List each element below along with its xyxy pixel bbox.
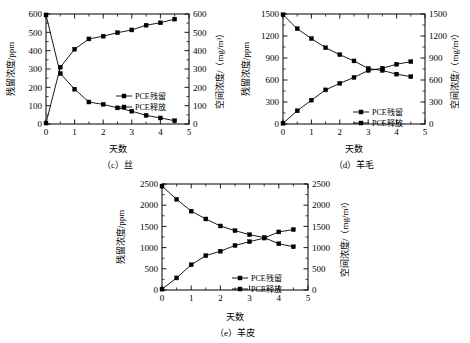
ytick-label-left-3: 900 bbox=[266, 53, 280, 63]
panel-caption-c: （c）丝 bbox=[102, 159, 133, 170]
ytick-label-right-1: 300 bbox=[429, 97, 443, 107]
legend-marker-0 bbox=[238, 276, 242, 280]
ytick-label-right-4: 1200 bbox=[429, 31, 448, 41]
datapoint-c-1-1 bbox=[58, 65, 62, 69]
datapoint-e-0-3 bbox=[204, 217, 208, 221]
datapoint-d-1-8 bbox=[395, 62, 399, 66]
plot-area-d: 0030030060060090090012001200150015000123… bbox=[235, 0, 470, 175]
xtick-label-2: 2 bbox=[218, 293, 223, 303]
chart-c-content: 0010010020020030030040040050050060060001… bbox=[5, 9, 225, 170]
ytick-label-left-5: 2500 bbox=[140, 179, 159, 189]
line-chart-e: 0050050010001000150015002000200025002500… bbox=[110, 170, 360, 343]
chart-e-content: 0050050010001000150015002000200025002500… bbox=[115, 179, 350, 338]
datapoint-d-0-3 bbox=[324, 46, 328, 50]
ytick-label-left-0: 0 bbox=[154, 285, 159, 295]
chart-panel-d: 0030030060060090090012001200150015000123… bbox=[235, 0, 470, 175]
ytick-label-right-2: 1000 bbox=[312, 243, 331, 253]
legend-c: PCE残留PCE释放 bbox=[116, 91, 166, 112]
datapoint-d-0-9 bbox=[409, 75, 413, 79]
ytick-label-right-5: 2500 bbox=[312, 179, 331, 189]
y-axis-label-left: 残留浓度/ppm bbox=[5, 42, 16, 97]
datapoint-c-1-6 bbox=[130, 28, 134, 32]
xtick-label-5: 5 bbox=[187, 127, 192, 137]
ytick-label-left-3: 1500 bbox=[140, 222, 159, 232]
datapoint-d-0-2 bbox=[309, 37, 313, 41]
ytick-label-right-3: 300 bbox=[193, 64, 207, 74]
legend-marker-0 bbox=[359, 110, 363, 114]
datapoint-e-0-1 bbox=[175, 197, 179, 201]
datapoint-d-1-5 bbox=[352, 75, 356, 79]
datapoint-d-0-8 bbox=[395, 72, 399, 76]
chart-panel-e: 0050050010001000150015002000200025002500… bbox=[110, 170, 360, 343]
legend-marker-0 bbox=[122, 94, 126, 98]
panel-caption-d: （d）羊毛 bbox=[334, 159, 375, 170]
y-axis-label-right: 空间浓度/（mg/m³） bbox=[449, 29, 460, 109]
ytick-label-left-2: 200 bbox=[29, 83, 43, 93]
ytick-label-right-0: 0 bbox=[312, 285, 317, 295]
ytick-label-right-5: 500 bbox=[193, 28, 207, 38]
legend-label-0: PCE残留 bbox=[372, 107, 403, 117]
ytick-label-right-2: 200 bbox=[193, 83, 207, 93]
y-axis-label-left: 残留浓度/ppm bbox=[240, 42, 251, 97]
ytick-label-left-6: 600 bbox=[29, 9, 43, 19]
xtick-label-5: 5 bbox=[306, 293, 311, 303]
legend-marker-1 bbox=[359, 121, 363, 125]
legend-label-1: PCE释放 bbox=[135, 102, 166, 112]
ytick-label-right-6: 600 bbox=[193, 9, 207, 19]
datapoint-e-1-5 bbox=[233, 243, 237, 247]
xtick-label-1: 1 bbox=[189, 293, 194, 303]
datapoint-d-0-5 bbox=[352, 59, 356, 63]
chart-d-content: 0030030060060090090012001200150015000123… bbox=[240, 9, 460, 170]
datapoint-e-0-9 bbox=[291, 245, 295, 249]
datapoint-d-0-4 bbox=[338, 53, 342, 57]
xtick-label-5: 5 bbox=[423, 127, 428, 137]
ytick-label-right-3: 1500 bbox=[312, 222, 331, 232]
plot-frame bbox=[162, 184, 308, 290]
y-axis-label-right: 空间浓度/（mg/m³） bbox=[214, 29, 225, 109]
datapoint-c-1-5 bbox=[116, 31, 120, 35]
datapoint-d-1-6 bbox=[366, 68, 370, 72]
datapoint-c-0-2 bbox=[73, 87, 77, 91]
datapoint-d-0-1 bbox=[295, 27, 299, 31]
datapoint-d-1-3 bbox=[324, 88, 328, 92]
datapoint-c-0-7 bbox=[144, 113, 148, 117]
ytick-label-left-5: 500 bbox=[29, 28, 43, 38]
datapoint-e-1-8 bbox=[277, 230, 281, 234]
x-axis-label: 天数 bbox=[109, 143, 127, 154]
legend-e: PCE残留PCE释放 bbox=[232, 273, 282, 294]
ytick-label-right-4: 400 bbox=[193, 46, 207, 56]
datapoint-d-1-4 bbox=[338, 81, 342, 85]
datapoint-e-0-4 bbox=[218, 224, 222, 228]
datapoint-e-0-0 bbox=[160, 184, 164, 188]
series-line-d-0 bbox=[283, 15, 411, 77]
ytick-label-right-0: 0 bbox=[193, 119, 198, 129]
xtick-label-2: 2 bbox=[101, 127, 106, 137]
figure-root: 0010010020020030030040040050050060060001… bbox=[0, 0, 470, 343]
datapoint-d-1-7 bbox=[380, 66, 384, 70]
legend-label-1: PCE释放 bbox=[372, 118, 403, 128]
x-axis-label: 天数 bbox=[345, 143, 363, 154]
ytick-label-right-2: 600 bbox=[429, 75, 443, 85]
ytick-label-left-1: 300 bbox=[266, 97, 280, 107]
xtick-label-0: 0 bbox=[160, 293, 165, 303]
datapoint-e-1-4 bbox=[218, 249, 222, 253]
series-line-e-0 bbox=[162, 186, 293, 247]
xtick-label-3: 3 bbox=[366, 127, 371, 137]
datapoint-c-1-3 bbox=[87, 37, 91, 41]
datapoint-c-1-8 bbox=[158, 21, 162, 25]
ytick-label-left-3: 300 bbox=[29, 64, 43, 74]
ytick-label-left-2: 1000 bbox=[140, 243, 159, 253]
legend-label-1: PCE释放 bbox=[251, 284, 282, 294]
ytick-label-right-5: 1500 bbox=[429, 9, 448, 19]
ytick-label-left-1: 100 bbox=[29, 101, 43, 111]
legend-label-0: PCE残留 bbox=[135, 91, 166, 101]
xtick-label-0: 0 bbox=[281, 127, 286, 137]
ytick-label-right-0: 0 bbox=[429, 119, 434, 129]
datapoint-e-1-9 bbox=[291, 228, 295, 232]
datapoint-c-1-0 bbox=[44, 121, 48, 125]
datapoint-c-1-9 bbox=[173, 17, 177, 21]
ytick-label-left-0: 0 bbox=[38, 119, 43, 129]
datapoint-e-1-1 bbox=[175, 276, 179, 280]
x-axis-label: 天数 bbox=[226, 311, 244, 322]
y-axis-label-right: 空间浓度/（mg/m³） bbox=[339, 197, 350, 277]
